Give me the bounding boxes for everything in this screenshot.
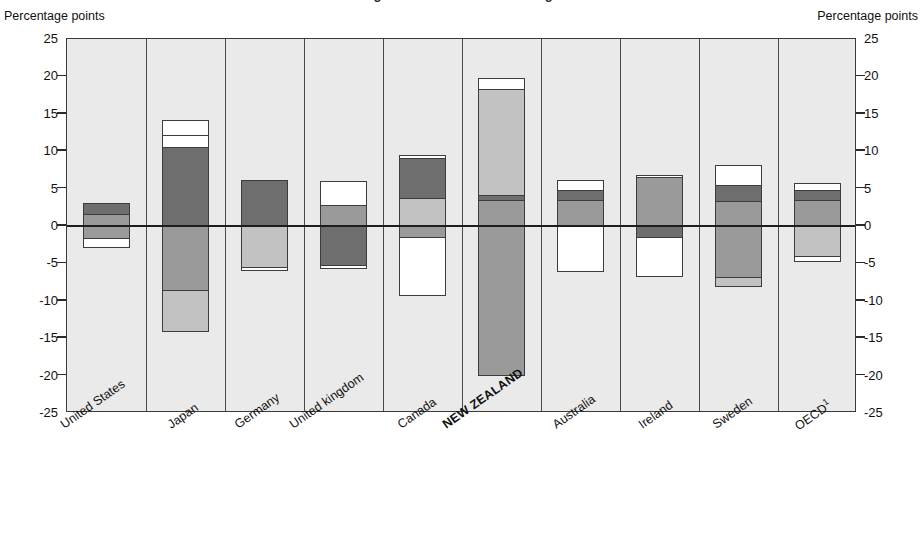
bar-segment	[715, 165, 762, 185]
y-axis-label-right: -10	[864, 292, 883, 307]
bar-segment	[557, 190, 604, 200]
bar-segment	[715, 277, 762, 287]
y-axis-label-left: 0	[51, 218, 58, 233]
bar-segment	[399, 237, 446, 296]
bar-segment	[320, 205, 367, 226]
axis-tick	[57, 112, 66, 114]
bar-segment	[83, 214, 130, 226]
axis-tick	[57, 187, 66, 189]
bar-segment	[162, 226, 209, 290]
axis-tick	[57, 299, 66, 301]
bar-segment	[636, 226, 683, 237]
y-axis-label-right: 25	[864, 31, 878, 46]
y-axis-label-right: -15	[864, 330, 883, 345]
y-axis-label-left: 20	[44, 68, 58, 83]
bar-segment	[83, 238, 130, 248]
axis-tick	[57, 374, 66, 376]
bar-segment	[320, 181, 367, 205]
bar-segment	[162, 147, 209, 226]
bar-segment	[794, 183, 841, 190]
bar-segment	[478, 78, 525, 89]
bar-segment	[715, 185, 762, 201]
y-axis-label-left: -20	[39, 367, 58, 382]
bar-segment	[320, 265, 367, 269]
bar-segment	[715, 226, 762, 277]
y-axis-label-right: 0	[864, 218, 871, 233]
bar-segment	[794, 256, 841, 262]
y-axis-label-right: -5	[864, 255, 876, 270]
bar-segment	[794, 226, 841, 256]
chart-title-strip: Figure: Contributions to change	[0, 0, 922, 10]
bar-segment	[241, 226, 288, 267]
bar-segment	[794, 190, 841, 200]
bar-segment	[794, 200, 841, 226]
bar-segment	[557, 180, 604, 190]
bar-segment	[636, 237, 683, 277]
y-axis-label-left: 15	[44, 105, 58, 120]
y-axis-label-left: 5	[51, 180, 58, 195]
right-axis-caption: Percentage points	[817, 9, 918, 23]
bar-segment	[241, 267, 288, 271]
bar-segment	[399, 226, 446, 237]
axis-tick	[57, 149, 66, 151]
y-axis-label-right: 20	[864, 68, 878, 83]
bar-segment	[399, 198, 446, 226]
y-axis-label-left: 10	[44, 143, 58, 158]
bar-segment	[636, 177, 683, 226]
bar-segment	[478, 200, 525, 226]
zero-axis-line	[67, 225, 855, 227]
axis-tick	[57, 336, 66, 338]
left-axis-caption: Percentage points	[4, 9, 105, 23]
bar-segment	[557, 226, 604, 272]
axis-tick	[57, 262, 66, 264]
y-axis-label-left: -5	[46, 255, 58, 270]
bar-segment	[162, 120, 209, 135]
axis-tick	[57, 75, 66, 77]
bar-segment	[399, 158, 446, 198]
bar-segment	[320, 226, 367, 265]
y-axis-label-right: 5	[864, 180, 871, 195]
bar-segment	[478, 89, 525, 194]
bar-segment	[83, 226, 130, 238]
y-axis-label-left: 25	[44, 31, 58, 46]
y-axis-label-left: -25	[39, 405, 58, 420]
plot-area	[66, 38, 856, 412]
bar-segment	[162, 290, 209, 333]
bar-segment	[557, 200, 604, 226]
bar-segment	[715, 201, 762, 226]
y-axis-label-right: -25	[864, 405, 883, 420]
bar-segment	[162, 135, 209, 147]
y-axis-label-right: -20	[864, 367, 883, 382]
bar-segment	[83, 203, 130, 214]
y-axis-label-right: 10	[864, 143, 878, 158]
y-axis-label-left: -15	[39, 330, 58, 345]
y-axis-label-left: -10	[39, 292, 58, 307]
y-axis-label-right: 15	[864, 105, 878, 120]
chart-title: Figure: Contributions to change	[362, 0, 560, 2]
bar-segment	[241, 180, 288, 226]
bar-segment	[478, 226, 525, 376]
axis-tick	[57, 224, 66, 226]
